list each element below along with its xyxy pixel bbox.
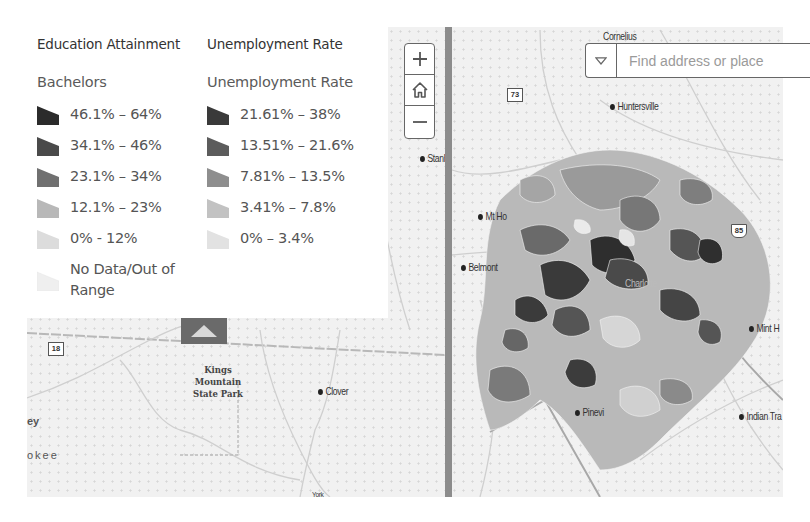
legend-subtitle-unemployment: Unemployment Rate: [207, 74, 354, 94]
place-label-cornelius: Cornelius: [603, 30, 636, 42]
search-widget: [585, 43, 810, 78]
swipe-divider-handle[interactable]: [445, 27, 452, 497]
plus-icon: [412, 51, 428, 67]
legend-label: 23.1% – 34%: [70, 166, 161, 187]
legend-collapse-button[interactable]: [181, 318, 227, 344]
legend-swatch: [37, 167, 59, 187]
legend-item: 13.51% – 21.6%: [207, 135, 354, 156]
legend-swatch: [37, 105, 59, 125]
legend-unemployment: Unemployment Rate Unemployment Rate 21.6…: [207, 36, 354, 249]
place-label-charlotte: Charlotte: [625, 277, 657, 289]
legend-swatch: [207, 198, 229, 218]
minus-icon: [412, 114, 428, 130]
legend-title-education: Education Attainment: [37, 36, 190, 56]
legend-swatch: [207, 229, 229, 249]
place-label-partial-okee: okee: [27, 449, 59, 461]
legend-education: Education Attainment Bachelors 46.1% – 6…: [37, 36, 190, 301]
zoom-out-button[interactable]: [405, 106, 434, 137]
legend-item: 0% - 12%: [37, 228, 190, 249]
legend-item: 3.41% – 7.8%: [207, 197, 354, 218]
place-label-belmont: Belmont: [461, 261, 498, 273]
legend-item: 23.1% – 34%: [37, 166, 190, 187]
legend-swatch: [37, 229, 59, 249]
place-label-huntersville: Huntersville: [610, 100, 658, 112]
triangle-down-icon: [595, 57, 607, 65]
legend-label: 46.1% – 64%: [70, 104, 161, 125]
legend-subtitle-bachelors: Bachelors: [37, 74, 190, 94]
place-label-indian-trail: Indian Tra: [739, 410, 781, 422]
legend-item: 21.61% – 38%: [207, 104, 354, 125]
legend-swatch: [207, 167, 229, 187]
legend-panel: Education Attainment Bachelors 46.1% – 6…: [0, 0, 388, 318]
legend-item: No Data/Out of Range: [37, 259, 190, 301]
park-label-kings-mountain: Kings Mountain State Park: [193, 364, 243, 400]
legend-swatch: [37, 136, 59, 156]
route-shield-18: 18: [48, 342, 64, 356]
legend-label: 12.1% – 23%: [70, 197, 161, 218]
legend-label: No Data/Out of Range: [70, 259, 190, 301]
legend-swatch: [37, 198, 59, 218]
place-label-clover: Clover: [318, 385, 348, 397]
zoom-in-button[interactable]: [405, 44, 434, 75]
legend-label: 21.61% – 38%: [240, 104, 340, 125]
interstate-shield-85: 85: [731, 224, 747, 238]
place-label-mint-hill: Mint H: [749, 322, 779, 334]
legend-item: 12.1% – 23%: [37, 197, 190, 218]
legend-label: 3.41% – 7.8%: [240, 197, 336, 218]
legend-label: 34.1% – 46%: [70, 135, 161, 156]
home-button[interactable]: [405, 75, 434, 106]
place-label-mt-holly: Mt Ho: [478, 210, 507, 222]
legend-label: 0% – 3.4%: [240, 228, 314, 249]
legend-label: 13.51% – 21.6%: [240, 135, 354, 156]
triangle-up-icon: [191, 325, 217, 337]
legend-title-unemployment: Unemployment Rate: [207, 36, 354, 56]
place-label-york: York: [312, 490, 324, 499]
search-source-dropdown[interactable]: [586, 44, 617, 77]
home-icon: [411, 81, 429, 99]
legend-item: 0% – 3.4%: [207, 228, 354, 249]
legend-item: 34.1% – 46%: [37, 135, 190, 156]
legend-item: 7.81% – 13.5%: [207, 166, 354, 187]
legend-swatch: [37, 271, 59, 291]
place-label-pineville: Pinevi: [575, 406, 604, 418]
search-input[interactable]: [617, 44, 810, 77]
place-label-partial-ey: ey: [27, 415, 39, 427]
zoom-controls: [404, 43, 435, 139]
route-shield-73: 73: [507, 88, 523, 102]
legend-item: 46.1% – 64%: [37, 104, 190, 125]
legend-label: 7.81% – 13.5%: [240, 166, 345, 187]
legend-swatch: [207, 136, 229, 156]
legend-swatch: [207, 105, 229, 125]
legend-label: 0% - 12%: [70, 228, 137, 249]
